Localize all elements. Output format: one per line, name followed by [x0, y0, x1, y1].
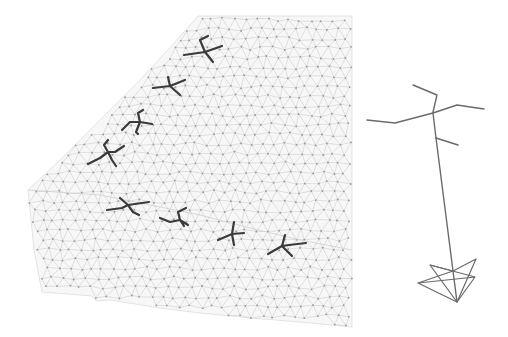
- mesh-vertex: [233, 38, 235, 40]
- mesh-vertex: [311, 288, 313, 290]
- mesh-vertex: [58, 190, 60, 192]
- mesh-vertex: [296, 144, 298, 146]
- mesh-vertex: [336, 85, 338, 87]
- mesh-vertex: [191, 154, 193, 156]
- mesh-vertex: [150, 279, 152, 281]
- mesh-vertex: [239, 314, 241, 316]
- mesh-vertex: [112, 248, 114, 250]
- mesh-vertex: [301, 134, 303, 136]
- mesh-vertex: [298, 20, 300, 22]
- mesh-vertex: [195, 125, 197, 127]
- mesh-vertex: [163, 296, 165, 298]
- mesh-vertex: [90, 268, 92, 270]
- mesh-vertex: [260, 124, 262, 126]
- mesh-vertex: [287, 78, 289, 80]
- mesh-vertex: [41, 278, 43, 280]
- mesh-vertex: [52, 180, 54, 182]
- mesh-vertex: [69, 170, 71, 172]
- mesh-vertex: [95, 297, 97, 299]
- mesh-vertex: [166, 93, 168, 95]
- mesh-vertex: [260, 199, 262, 201]
- mesh-vertex: [219, 86, 221, 88]
- mesh-vertex: [278, 230, 280, 232]
- mesh-vertex: [289, 229, 291, 231]
- mesh-vertex: [263, 315, 265, 317]
- mesh-vertex: [194, 221, 196, 223]
- mesh-vertex: [133, 248, 135, 250]
- mesh-vertex: [331, 21, 333, 23]
- mesh-vertex: [306, 66, 308, 68]
- mesh-vertex: [339, 48, 341, 50]
- mesh-vertex: [78, 209, 80, 211]
- mesh-vertex: [268, 174, 270, 176]
- mesh-vertex: [309, 95, 311, 97]
- mesh-vertex: [306, 125, 308, 127]
- mesh-vertex: [202, 172, 204, 174]
- mesh-vertex: [98, 279, 100, 281]
- mesh-vertex: [288, 36, 290, 38]
- lower-branch: [436, 138, 458, 145]
- mesh-vertex: [322, 154, 324, 156]
- mesh-vertex: [267, 114, 269, 116]
- mesh-vertex: [119, 162, 121, 164]
- mesh-vertex: [46, 173, 48, 175]
- mesh-vertex: [283, 28, 285, 30]
- right-arm: [433, 105, 484, 113]
- mesh-vertex: [109, 202, 111, 204]
- mesh-vertex: [117, 124, 119, 126]
- mesh-vertex: [228, 276, 230, 278]
- mesh-vertex: [299, 40, 301, 42]
- mesh-vertex: [256, 231, 258, 233]
- mesh-vertex: [295, 222, 297, 224]
- mesh-vertex: [295, 68, 297, 70]
- mesh-vertex: [179, 152, 181, 154]
- mesh-vertex: [283, 107, 285, 109]
- mesh-vertex: [337, 27, 339, 29]
- mesh-vertex: [315, 46, 317, 48]
- mesh-vertex: [206, 145, 208, 147]
- mesh-vertex: [321, 134, 323, 136]
- mesh-vertex: [184, 105, 186, 107]
- mesh-vertex: [339, 295, 341, 297]
- mesh-vertex: [309, 55, 311, 57]
- mesh-vertex: [130, 125, 132, 127]
- mesh-vertex: [96, 220, 98, 222]
- mesh-vertex: [254, 134, 256, 136]
- mesh-vertex: [158, 94, 160, 96]
- mesh-vertex: [333, 249, 335, 251]
- mesh-vertex: [261, 258, 263, 260]
- mesh-vertex: [123, 155, 125, 157]
- triangulated-mesh: [28, 16, 353, 327]
- mesh-vertex: [267, 94, 269, 96]
- mesh-vertex: [207, 278, 209, 280]
- mesh-vertex: [278, 172, 280, 174]
- mesh-vertex: [185, 66, 187, 68]
- mesh-vertex: [331, 307, 333, 309]
- mesh-vertex: [98, 202, 100, 204]
- mesh-vertex: [173, 144, 175, 146]
- mesh-vertex: [194, 241, 196, 243]
- mesh-vertex: [273, 162, 275, 164]
- mesh-vertex: [177, 191, 179, 193]
- mesh-vertex: [304, 163, 306, 165]
- mesh-vertex: [34, 209, 36, 211]
- mesh-vertex: [238, 276, 240, 278]
- mesh-vertex: [326, 85, 328, 87]
- head-branch: [413, 85, 437, 112]
- mesh-vertex: [327, 162, 329, 164]
- mesh-vertex: [301, 154, 303, 156]
- mesh-vertex: [139, 183, 141, 185]
- mesh-vertex: [107, 240, 109, 242]
- mesh-vertex: [273, 28, 275, 30]
- mesh-vertex: [338, 256, 340, 258]
- mesh-vertex: [92, 191, 94, 193]
- left-arm: [367, 113, 433, 123]
- mesh-vertex: [190, 115, 192, 117]
- mesh-vertex: [258, 36, 260, 38]
- mesh-vertex: [350, 66, 352, 68]
- mesh-vertex: [240, 87, 242, 89]
- reference-skeleton: [367, 85, 484, 302]
- mesh-vertex: [155, 192, 157, 194]
- mesh-vertex: [78, 286, 80, 288]
- mesh-vertex: [60, 249, 62, 251]
